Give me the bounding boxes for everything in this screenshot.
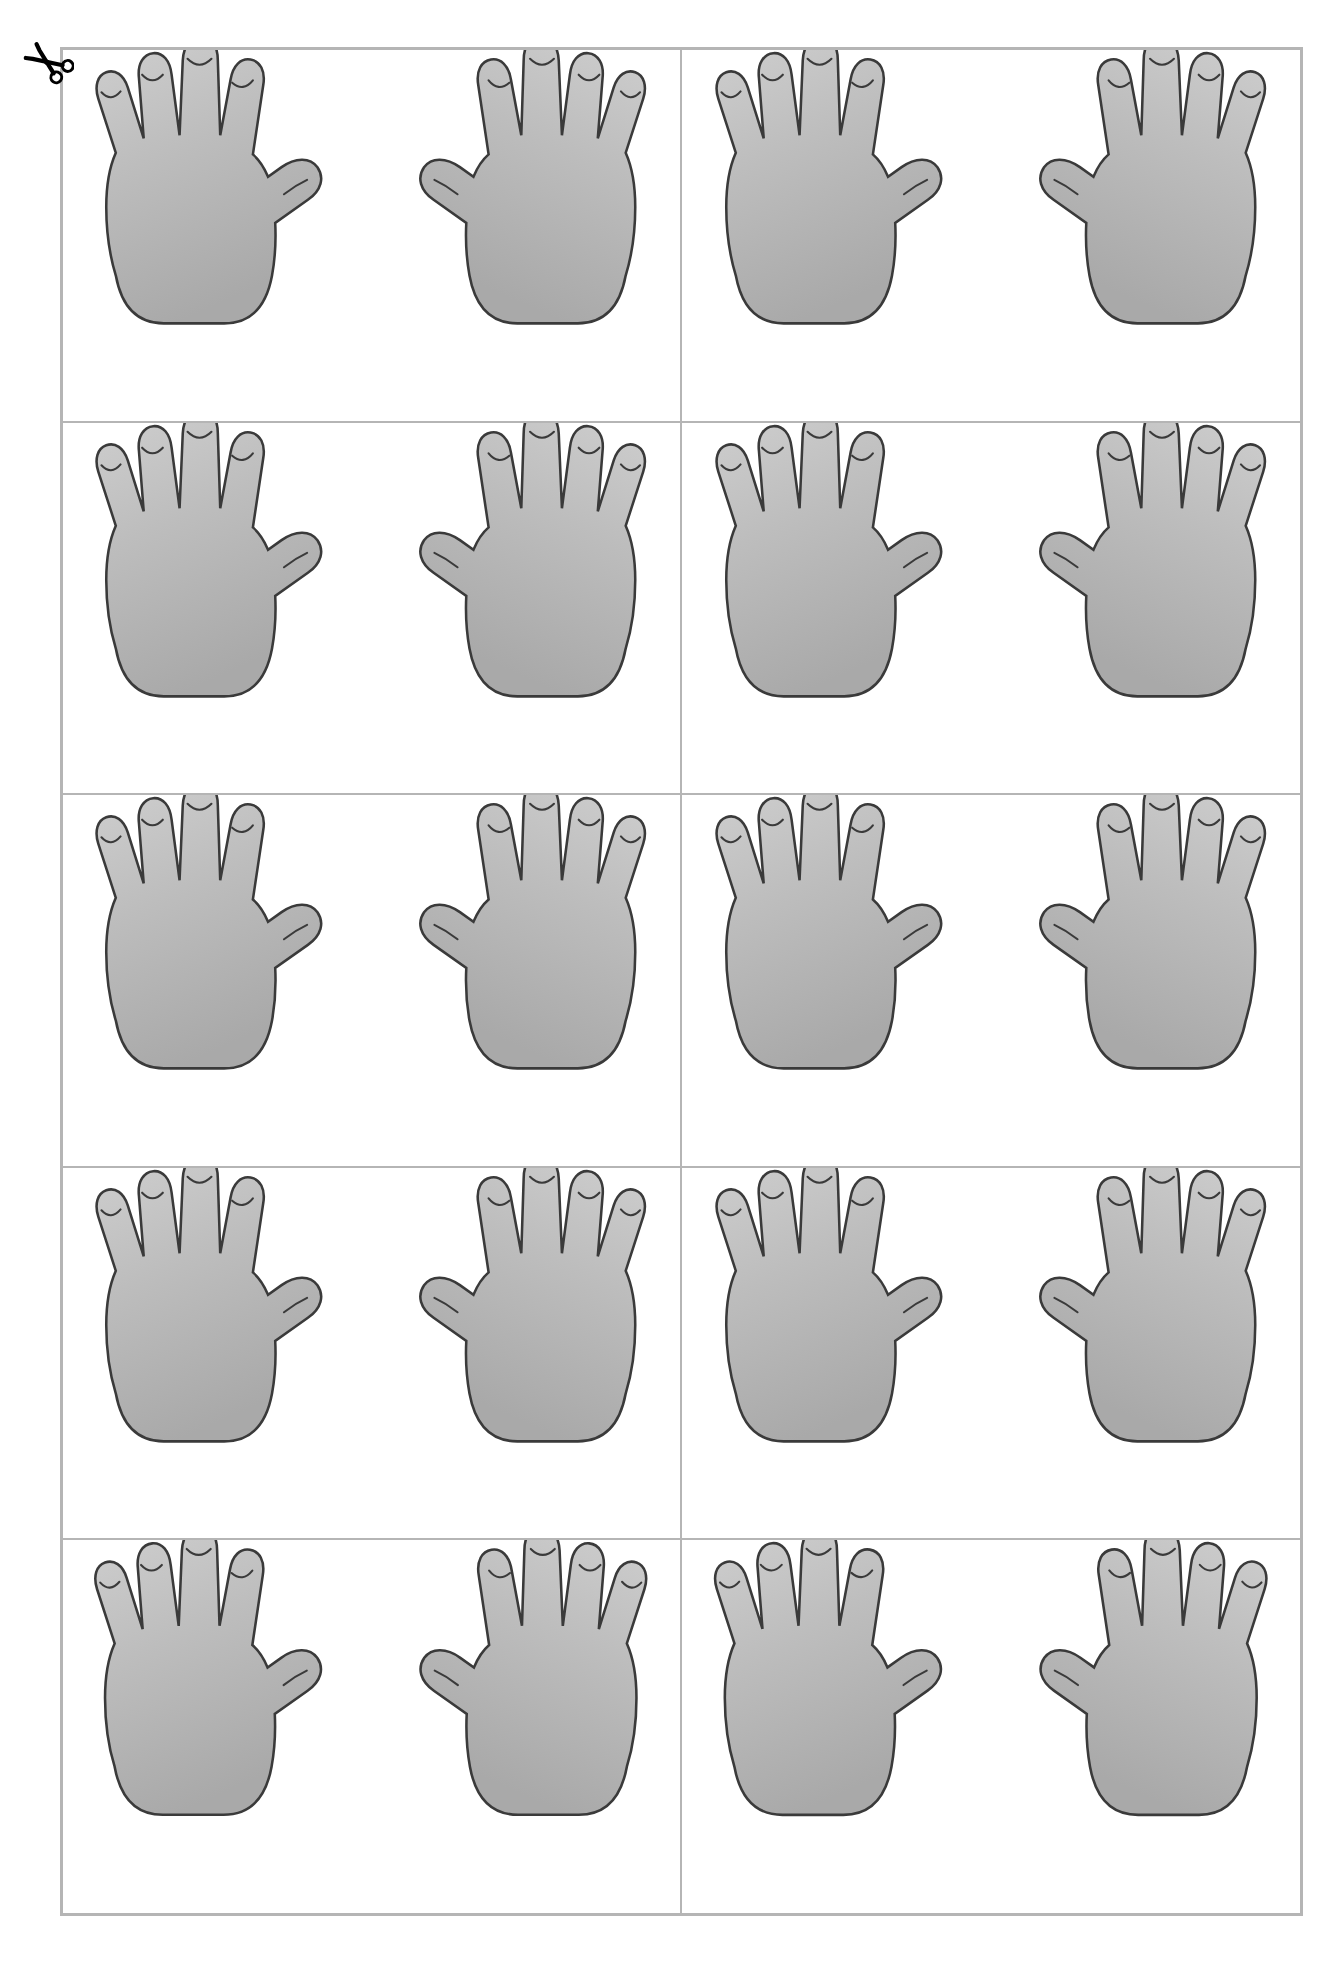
hand-pair <box>63 423 680 794</box>
hand-pair <box>682 1168 1301 1539</box>
right-hand <box>1040 423 1265 696</box>
left-hand <box>97 50 322 323</box>
hand-pair-cell-3[interactable] <box>63 423 682 796</box>
hand-pair-cell-7[interactable] <box>63 1168 682 1541</box>
left-hand <box>97 1168 322 1441</box>
right-hand <box>420 423 645 696</box>
right-hand <box>420 795 645 1068</box>
hand-pair <box>682 1540 1301 1913</box>
hand-pair-cell-8[interactable] <box>682 1168 1301 1541</box>
hand-pair <box>63 1540 680 1913</box>
hand-pair <box>682 50 1301 421</box>
right-hand <box>421 1540 647 1815</box>
hand-pair-cell-5[interactable] <box>63 795 682 1168</box>
worksheet-page <box>0 0 1325 1974</box>
hand-pair-cell-9[interactable] <box>63 1540 682 1913</box>
hand-pair-cell-4[interactable] <box>682 423 1301 796</box>
hand-pair <box>682 795 1301 1166</box>
right-hand <box>1040 1540 1266 1815</box>
scissors-icon <box>22 36 74 88</box>
hand-pair <box>682 423 1301 794</box>
hand-pair <box>63 795 680 1166</box>
cut-out-grid <box>60 47 1303 1916</box>
left-hand <box>716 50 941 323</box>
left-hand <box>97 423 322 696</box>
hand-pair-cell-1[interactable] <box>63 50 682 423</box>
hand-pair-cell-2[interactable] <box>682 50 1301 423</box>
right-hand <box>420 1168 645 1441</box>
right-hand <box>1040 50 1265 323</box>
left-hand <box>716 423 941 696</box>
hand-pair-cell-10[interactable] <box>682 1540 1301 1913</box>
hand-pair <box>63 1168 680 1539</box>
right-hand <box>1040 795 1265 1068</box>
left-hand <box>716 1168 941 1441</box>
hand-pair <box>63 50 680 421</box>
right-hand <box>420 50 645 323</box>
hand-pair-cell-6[interactable] <box>682 795 1301 1168</box>
left-hand <box>95 1540 321 1815</box>
left-hand <box>716 795 941 1068</box>
left-hand <box>715 1540 941 1815</box>
right-hand <box>1040 1168 1265 1441</box>
left-hand <box>97 795 322 1068</box>
